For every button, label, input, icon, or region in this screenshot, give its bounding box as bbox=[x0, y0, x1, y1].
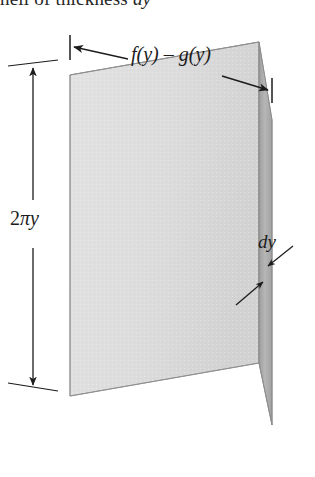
slab-front-texture bbox=[70, 42, 259, 396]
caption-italic-text: dy bbox=[133, 0, 151, 9]
figure-container: hell of thickness dy f(y) – g(y) 2πy dy bbox=[0, 0, 315, 477]
thickness-label: dy bbox=[258, 232, 276, 251]
height-label-number: 2 bbox=[10, 207, 20, 229]
caption-fragment: hell of thickness dy bbox=[0, 0, 151, 8]
rectangular-slab bbox=[70, 42, 272, 425]
height-label: 2πy bbox=[10, 208, 39, 228]
width-label: f(y) – g(y) bbox=[131, 44, 211, 64]
height-dimension-tick-top bbox=[8, 60, 58, 66]
height-label-variable: y bbox=[30, 207, 39, 229]
height-label-pi: π bbox=[20, 207, 30, 229]
caption-roman-text: hell of thickness bbox=[0, 0, 128, 9]
width-dimension-arrow-left bbox=[74, 47, 128, 59]
